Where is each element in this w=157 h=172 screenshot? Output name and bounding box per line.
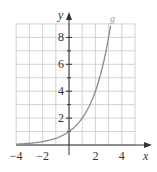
svg-text:−2: −2 [36, 149, 49, 163]
y-axis-label: y [57, 8, 64, 22]
x-axis-label: x [142, 149, 149, 163]
svg-text:4: 4 [58, 84, 64, 98]
svg-text:4: 4 [119, 149, 125, 163]
axes [16, 12, 152, 155]
svg-text:8: 8 [58, 30, 64, 44]
svg-text:−4: −4 [10, 149, 23, 163]
chart: g x y −4−2242468 [0, 0, 157, 172]
svg-text:6: 6 [58, 57, 64, 71]
svg-text:2: 2 [58, 111, 64, 125]
svg-text:2: 2 [92, 149, 98, 163]
curve-label: g [110, 13, 115, 24]
